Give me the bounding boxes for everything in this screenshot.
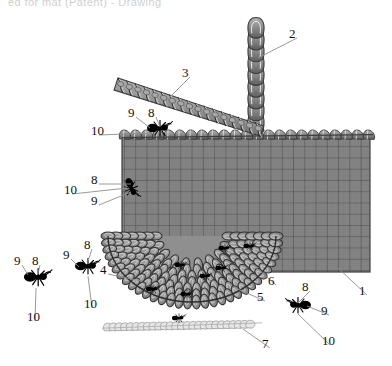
vertical-chain-stitch-column — [248, 18, 264, 134]
callout-label-b8: 8 — [84, 238, 91, 251]
callout-label-b10: 10 — [84, 297, 97, 310]
callout-label-c1: 1 — [359, 284, 366, 297]
callout-label-l8: 8 — [32, 254, 39, 267]
callout-label-m9: 9 — [91, 194, 98, 207]
callout-label-t9: 9 — [128, 106, 135, 119]
callout-label-c3: 3 — [182, 66, 189, 79]
callout-label-c7: 7 — [262, 337, 269, 350]
callout-label-m8: 8 — [91, 173, 98, 186]
callout-label-r10: 10 — [322, 334, 335, 347]
callout-label-b9: 9 — [63, 248, 70, 261]
callout-label-c5: 5 — [257, 290, 264, 303]
callout-label-c4: 4 — [100, 263, 107, 276]
callout-label-c2: 2 — [289, 27, 296, 40]
ant-lower-left — [24, 269, 52, 286]
diagonal-braided-cord — [114, 78, 265, 138]
figure-canvas: ed for mat (Patent) - Drawing — [0, 0, 392, 366]
ant-lower-right — [286, 298, 312, 314]
callout-label-l10: 10 — [27, 310, 40, 323]
callout-label-l9: 9 — [14, 254, 21, 267]
callout-label-t8: 8 — [148, 106, 155, 119]
callout-label-c6: 6 — [268, 274, 275, 287]
leader-line-10 — [72, 188, 127, 194]
callout-label-r8: 8 — [302, 280, 309, 293]
patent-figure-svg — [0, 0, 392, 366]
callout-label-r9: 9 — [321, 304, 328, 317]
callout-label-t10: 10 — [91, 124, 104, 137]
ant-on-bottom-chain — [172, 314, 186, 323]
callout-label-m10: 10 — [64, 183, 77, 196]
leader-line-9 — [22, 265, 28, 275]
